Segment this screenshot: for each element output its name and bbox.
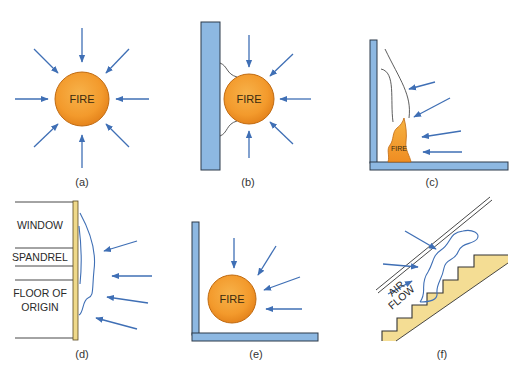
arrow-icon: [405, 231, 436, 249]
arrow-icon: [270, 122, 293, 144]
arrow-icon: [264, 277, 300, 290]
arrow-icon: [34, 124, 58, 147]
wall: [192, 222, 199, 335]
arrow-icon: [409, 82, 435, 89]
panel-d: WINDOW SPANDREL FLOOR OF ORIGIN (d): [12, 201, 152, 360]
flame-contour: [220, 121, 237, 136]
panel-e: FIRE (e): [192, 222, 318, 360]
window-label: WINDOW: [17, 219, 63, 231]
panel-caption: (c): [426, 176, 439, 188]
fire-label: FIRE: [69, 93, 94, 105]
arrow-icon: [96, 318, 137, 329]
arrow-icon: [107, 297, 148, 303]
panel-a: FIRE (a): [15, 28, 149, 188]
spandrel-label: SPANDREL: [12, 251, 68, 263]
arrow-icon: [104, 241, 137, 251]
arrow-icon: [270, 54, 293, 76]
panel-c: FIRE (c): [370, 40, 508, 188]
arrow-icon: [106, 49, 129, 73]
arrow-icon: [34, 49, 58, 73]
arrow-icon: [258, 246, 276, 275]
flame-contour: [79, 226, 81, 284]
wall: [201, 22, 220, 170]
panel-caption: (a): [75, 176, 88, 188]
floor: [192, 333, 318, 341]
air-arrows: [409, 82, 462, 152]
panel-f: AIR FLOW (f): [376, 197, 508, 360]
floor-of-label: FLOOR OF: [13, 287, 67, 299]
panel-b: FIRE (b): [201, 22, 311, 188]
fire-label: FIRE: [391, 145, 407, 152]
stair-stringer: [396, 263, 508, 341]
flame-shape: [388, 118, 411, 162]
flame-contour: [385, 49, 409, 118]
panel-caption: (e): [249, 348, 262, 360]
panel-caption: (d): [75, 348, 88, 360]
arrow-icon: [106, 124, 129, 147]
wall: [370, 40, 377, 163]
flame-contour: [381, 69, 393, 122]
arrow-icon: [414, 98, 450, 117]
fire-diagram: FIRE (a) FIRE (b): [0, 0, 523, 372]
flame-contour: [220, 63, 237, 77]
fire-label: FIRE: [236, 93, 261, 105]
arrow-icon: [422, 131, 461, 137]
origin-label: ORIGIN: [21, 301, 58, 313]
fire-label: FIRE: [219, 293, 244, 305]
exterior-wall: [73, 201, 78, 340]
panel-caption: (f): [437, 348, 447, 360]
floor: [370, 162, 508, 170]
air-arrows: [96, 241, 152, 329]
panel-caption: (b): [241, 176, 254, 188]
